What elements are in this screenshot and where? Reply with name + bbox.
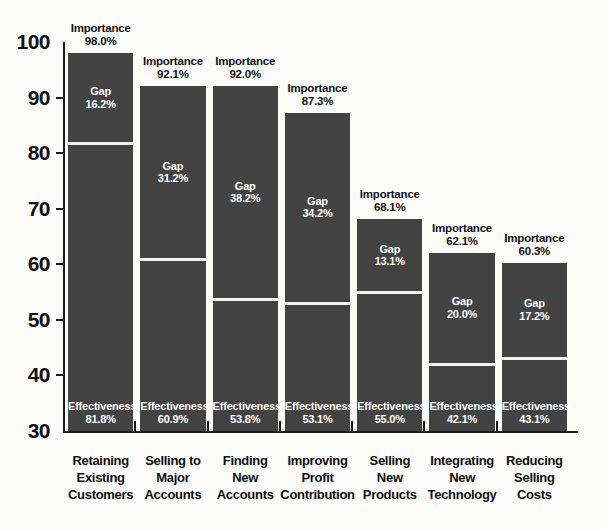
y-axis-tick-label: 30 — [28, 419, 50, 443]
importance-value: 62.1% — [421, 235, 502, 248]
x-axis-tick-mark — [351, 421, 353, 432]
importance-title: Importance — [60, 22, 141, 35]
bar[interactable] — [68, 53, 133, 432]
bar-group[interactable]: Importance62.1%Gap20.0%Effectiveness42.1… — [429, 0, 494, 432]
y-axis-tick-label: 50 — [28, 308, 50, 332]
bar-group[interactable]: Importance98.0%Gap16.2%Effectiveness81.8… — [68, 0, 133, 432]
y-axis-tick-label: 70 — [28, 197, 50, 221]
bar-group[interactable]: Importance60.3%Gap17.2%Effectiveness43.1… — [502, 0, 567, 432]
y-axis-tick-mark — [56, 97, 64, 99]
y-axis: 10090807060504030 — [0, 0, 56, 530]
category-label-line: Selling to — [133, 452, 212, 469]
x-axis-tick-mark — [207, 421, 209, 432]
category-label-line: Accounts — [133, 486, 212, 503]
category-label-line: Customers — [61, 486, 140, 503]
bar[interactable] — [502, 263, 567, 432]
bar[interactable] — [213, 86, 278, 432]
bar-group[interactable]: Importance87.3%Gap34.2%Effectiveness53.1… — [285, 0, 350, 432]
importance-label: Importance92.1% — [132, 55, 213, 81]
x-axis-category-label: FindingNewAccounts — [206, 452, 285, 503]
category-label-line: Products — [350, 486, 429, 503]
importance-title: Importance — [349, 188, 430, 201]
category-label-line: Profit — [278, 469, 357, 486]
importance-title: Importance — [277, 82, 358, 95]
category-label-line: New — [350, 469, 429, 486]
y-axis-tick-mark — [56, 374, 64, 376]
category-label-line: Integrating — [422, 452, 501, 469]
x-axis-tick-mark — [496, 421, 498, 432]
y-axis-tick-label: 40 — [28, 363, 50, 387]
x-axis-category-label: ReducingSellingCosts — [495, 452, 574, 503]
category-label-line: Major — [133, 469, 212, 486]
importance-label: Importance98.0% — [60, 22, 141, 48]
y-axis-tick-label: 60 — [28, 252, 50, 276]
category-label-line: Costs — [495, 486, 574, 503]
x-axis-tick-mark — [279, 421, 281, 432]
bar[interactable] — [285, 113, 350, 432]
category-label-line: Selling — [350, 452, 429, 469]
y-axis-tick-label: 100 — [16, 30, 50, 54]
x-axis-line — [63, 431, 578, 433]
importance-title: Importance — [421, 222, 502, 235]
stacked-bar-chart: 10090807060504030 Importance98.0%Gap16.2… — [0, 0, 607, 530]
importance-label: Importance92.0% — [205, 55, 286, 81]
category-label-line: Technology — [422, 486, 501, 503]
x-axis-tick-mark — [134, 421, 136, 432]
y-axis-tick-label: 80 — [28, 141, 50, 165]
y-axis-tick-mark — [56, 152, 64, 154]
bar[interactable] — [429, 253, 494, 432]
gap-effectiveness-divider — [68, 142, 133, 145]
importance-value: 60.3% — [494, 245, 575, 258]
y-axis-tick-mark — [56, 319, 64, 321]
gap-effectiveness-divider — [429, 363, 494, 366]
y-axis-tick-mark — [56, 263, 64, 265]
category-label-line: Retaining — [61, 452, 140, 469]
bar-group[interactable]: Importance92.1%Gap31.2%Effectiveness60.9… — [140, 0, 205, 432]
category-label-line: Finding — [206, 452, 285, 469]
importance-title: Importance — [132, 55, 213, 68]
x-axis-category-label: IntegratingNewTechnology — [422, 452, 501, 503]
category-label-line: New — [422, 469, 501, 486]
importance-value: 87.3% — [277, 95, 358, 108]
gap-effectiveness-divider — [213, 298, 278, 301]
x-axis-category-label: ImprovingProfitContribution — [278, 452, 357, 503]
category-label-line: Contribution — [278, 486, 357, 503]
importance-label: Importance60.3% — [494, 232, 575, 258]
category-label-line: Improving — [278, 452, 357, 469]
importance-value: 68.1% — [349, 201, 430, 214]
x-axis-tick-mark — [423, 421, 425, 432]
bar[interactable] — [357, 219, 422, 432]
importance-value: 92.0% — [205, 68, 286, 81]
importance-title: Importance — [205, 55, 286, 68]
importance-value: 92.1% — [132, 68, 213, 81]
importance-title: Importance — [494, 232, 575, 245]
importance-label: Importance87.3% — [277, 82, 358, 108]
y-axis-tick-mark — [56, 208, 64, 210]
bar-group[interactable]: Importance68.1%Gap13.1%Effectiveness55.0… — [357, 0, 422, 432]
gap-effectiveness-divider — [502, 357, 567, 360]
x-axis-category-label: Selling toMajorAccounts — [133, 452, 212, 503]
category-label-line: Existing — [61, 469, 140, 486]
importance-value: 98.0% — [60, 35, 141, 48]
category-label-line: Accounts — [206, 486, 285, 503]
importance-label: Importance62.1% — [421, 222, 502, 248]
category-label-line: Selling — [495, 469, 574, 486]
gap-effectiveness-divider — [140, 258, 205, 261]
importance-label: Importance68.1% — [349, 188, 430, 214]
category-label-line: New — [206, 469, 285, 486]
x-axis-category-label: SellingNewProducts — [350, 452, 429, 503]
y-axis-tick-label: 90 — [28, 86, 50, 110]
gap-effectiveness-divider — [285, 302, 350, 305]
bar-group[interactable]: Importance92.0%Gap38.2%Effectiveness53.8… — [213, 0, 278, 432]
gap-effectiveness-divider — [357, 291, 422, 294]
x-axis-category-label: RetainingExistingCustomers — [61, 452, 140, 503]
category-label-line: Reducing — [495, 452, 574, 469]
